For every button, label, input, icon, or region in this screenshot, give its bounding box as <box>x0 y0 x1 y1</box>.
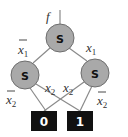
label-not-x1: x1 <box>17 40 28 59</box>
root-label: f <box>46 9 52 24</box>
svg-text:S: S <box>56 33 64 46</box>
terminal-0: 0 <box>31 111 57 131</box>
svg-text:0: 0 <box>40 115 48 129</box>
bdd-diagram: f x1 x1 x2 x2 x2 x2 S S S 0 <box>0 0 128 137</box>
edge-left-t0 <box>30 88 46 111</box>
svg-text:x2: x2 <box>5 92 16 109</box>
terminal-1: 1 <box>67 111 93 131</box>
node-left: S <box>11 61 39 89</box>
label-x2-right: x2 <box>62 80 73 97</box>
svg-text:x2: x2 <box>44 80 55 97</box>
edge-right-t1 <box>80 86 92 111</box>
svg-text:x2: x2 <box>62 80 73 97</box>
svg-text:S: S <box>91 68 99 81</box>
svg-text:1: 1 <box>76 115 84 129</box>
label-not-x2-right: x2 <box>96 92 107 110</box>
node-top: S <box>46 24 74 52</box>
label-not-x2-left: x2 <box>5 91 16 109</box>
label-x2-left: x2 <box>44 80 55 97</box>
svg-text:x2: x2 <box>96 93 107 110</box>
label-x1: x1 <box>85 40 96 57</box>
node-right: S <box>81 59 109 87</box>
edge-top-left <box>33 48 50 63</box>
svg-text:S: S <box>21 70 29 83</box>
svg-text:x1: x1 <box>85 40 96 57</box>
edge-top-right <box>69 48 87 61</box>
svg-text:x1: x1 <box>17 42 28 59</box>
